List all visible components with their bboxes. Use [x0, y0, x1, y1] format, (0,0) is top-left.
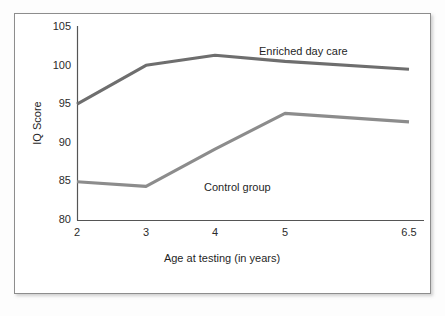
series-annotation-enriched: Enriched day care — [259, 45, 348, 57]
y-tick-label-105: 105 — [53, 20, 71, 32]
chart-figure: 105 100 95 90 85 80 2 3 4 5 6.5 Age at t… — [0, 0, 445, 316]
y-tick-label-90: 90 — [59, 136, 71, 148]
line-chart: 105 100 95 90 85 80 2 3 4 5 6.5 Age at t… — [0, 0, 445, 316]
y-tick-label-100: 100 — [53, 59, 71, 71]
x-tick-label-3: 3 — [143, 226, 149, 238]
x-tick-label-4: 4 — [212, 226, 218, 238]
y-tick-label-80: 80 — [59, 213, 71, 225]
x-axis-title: Age at testing (in years) — [164, 252, 280, 264]
series-line-control-group — [77, 113, 409, 186]
y-axis-title: IQ Score — [31, 101, 43, 144]
x-tick-label-2: 2 — [74, 226, 80, 238]
series-line-enriched-day-care — [77, 55, 409, 104]
x-tick-label-6-5: 6.5 — [401, 226, 416, 238]
x-tick-label-5: 5 — [282, 226, 288, 238]
y-tick-label-95: 95 — [59, 97, 71, 109]
series-annotation-control: Control group — [204, 181, 271, 193]
y-tick-label-85: 85 — [59, 174, 71, 186]
